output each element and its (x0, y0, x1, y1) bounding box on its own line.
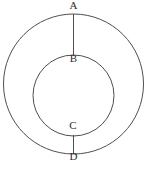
figure-canvas (0, 0, 149, 170)
point-label-a: A (67, 0, 81, 11)
point-label-c: C (66, 120, 80, 131)
point-label-b: B (67, 53, 81, 64)
geometry-figure: A B C D (0, 0, 149, 170)
point-label-d: D (67, 151, 81, 162)
